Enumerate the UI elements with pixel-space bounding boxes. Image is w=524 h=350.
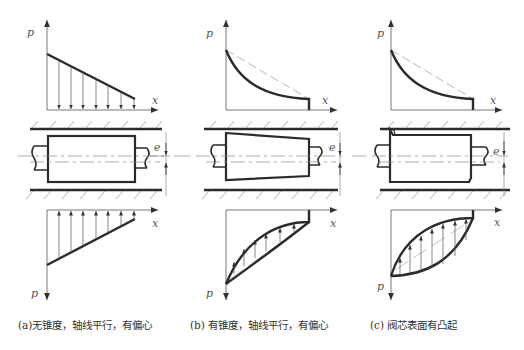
- caption-b: (b) 有锥度，轴线平行，有偏心: [190, 317, 328, 332]
- right-shaft: [135, 148, 149, 168]
- x-axis-label: x: [322, 94, 329, 107]
- eccentricity-label: e: [493, 145, 500, 158]
- pressure-curve: [391, 50, 473, 110]
- panel-b-top-graph: p x: [206, 20, 337, 110]
- p-axis-label: p: [377, 27, 384, 40]
- panel-b-valve: e: [174, 121, 344, 199]
- panel-a-top-graph: p x: [27, 20, 159, 110]
- pressure-curve: [226, 50, 309, 110]
- pressure-arrows: [234, 224, 294, 274]
- x-axis-label: x: [152, 217, 159, 230]
- eccentricity-label: e: [154, 141, 161, 154]
- panel-c-valve: e: [352, 121, 510, 199]
- pressure-line: [47, 219, 135, 265]
- left-shaft: [32, 146, 48, 170]
- panel-b: p x e p x: [174, 20, 344, 300]
- hydraulic-lock-diagram: p x: [0, 0, 524, 350]
- p-axis-label: p: [377, 280, 384, 293]
- pressure-curve-lower: [226, 222, 309, 284]
- caption-c: (c) 阀芯表面有凸起: [370, 317, 457, 332]
- p-axis-label: p: [27, 26, 34, 39]
- x-axis-label: x: [490, 94, 497, 107]
- panel-a-bottom-graph: p x: [31, 210, 159, 300]
- eccentricity-label: e: [329, 141, 336, 154]
- x-axis-label: x: [494, 216, 501, 229]
- panel-c-top-graph: p x: [377, 20, 502, 110]
- pressure-line: [47, 54, 135, 99]
- p-axis-label: p: [206, 27, 213, 40]
- p-axis-label: p: [31, 287, 38, 300]
- panel-a-valve: e: [18, 121, 170, 199]
- pressure-arrows: [59, 60, 134, 109]
- spool-body: [48, 136, 135, 182]
- p-axis-label: p: [206, 287, 213, 300]
- x-axis-label: x: [330, 217, 337, 230]
- x-axis-label: x: [152, 94, 159, 107]
- panel-b-bottom-graph: p x: [206, 210, 337, 300]
- caption-a: (a)无锥度，轴线平行，有偏心: [18, 317, 152, 332]
- panel-a: p x: [18, 20, 170, 300]
- tapered-spool-body: [226, 133, 309, 180]
- panel-c-bottom-graph: p x: [377, 210, 502, 300]
- panel-c: p x e p x: [352, 20, 510, 300]
